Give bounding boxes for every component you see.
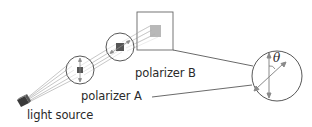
screen-light-spot bbox=[150, 25, 161, 37]
leader-line-a bbox=[152, 85, 252, 97]
polarizer-b-label: polarizer B bbox=[135, 66, 196, 80]
leader-line-b bbox=[173, 50, 253, 66]
polarizer-a bbox=[66, 56, 94, 84]
polarizer-b bbox=[106, 33, 134, 61]
angle-theta-label: θ bbox=[273, 51, 280, 65]
polarizer-a-label: polarizer A bbox=[81, 89, 142, 103]
light-source-label: light source bbox=[27, 108, 93, 122]
light-source-icon bbox=[17, 94, 31, 107]
